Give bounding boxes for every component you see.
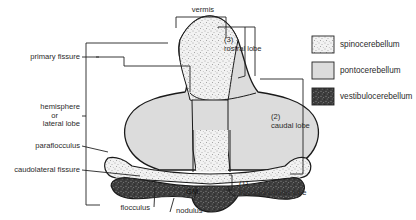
- label-rostral-lobe: (3) rostral lobe: [224, 36, 262, 53]
- legend-label-ponto: pontocerebellum: [340, 67, 401, 76]
- cerebellum-diagram: vermis primary fissure hemisphere or lat…: [0, 0, 416, 220]
- label-hemisphere: hemisphere or lateral lobe: [0, 103, 80, 129]
- label-gm: GM.: [186, 188, 200, 197]
- label-paraflocculus: paraflocculus: [0, 142, 80, 151]
- label-flocculus: flocculus: [90, 204, 150, 213]
- rostral-vermis: [179, 16, 238, 102]
- label-caudolateral-fissure: caudolateral fissure: [0, 166, 80, 175]
- label-caudal-lobe: (2) caudal lobe: [271, 113, 310, 130]
- label-flocculonodular-lobe: (1) flocculonodular lobe: [239, 180, 307, 197]
- legend-swatch-vestibulo: [312, 88, 334, 105]
- label-primary-fissure: primary fissure: [0, 53, 80, 62]
- label-vermis: vermis: [183, 6, 223, 15]
- label-nodulus: nodulus: [176, 207, 203, 216]
- legend-swatch-spino: [312, 36, 334, 53]
- legend-swatch-ponto: [312, 62, 334, 79]
- legend-label-spino: spinocerebellum: [340, 41, 400, 50]
- legend-label-vestibulo: vestibulocerebellum: [340, 93, 412, 102]
